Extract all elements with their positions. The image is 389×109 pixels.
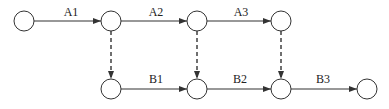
activity-label-b2: B2 bbox=[233, 72, 247, 87]
node-bottom-2 bbox=[187, 79, 207, 99]
activity-label-a2: A2 bbox=[149, 5, 164, 20]
node-top-4 bbox=[271, 11, 291, 31]
node-top-2 bbox=[101, 11, 121, 31]
node-top-1 bbox=[14, 11, 34, 31]
activity-label-b3: B3 bbox=[316, 72, 330, 87]
activity-label-a1: A1 bbox=[64, 5, 79, 20]
diagram-canvas bbox=[0, 0, 389, 109]
node-bottom-3 bbox=[271, 79, 291, 99]
activity-label-b1: B1 bbox=[149, 72, 163, 87]
node-bottom-1 bbox=[101, 79, 121, 99]
network-diagram: A1 A2 A3 B1 B2 B3 bbox=[0, 0, 389, 109]
activity-label-a3: A3 bbox=[234, 5, 249, 20]
node-top-3 bbox=[187, 11, 207, 31]
node-bottom-4 bbox=[357, 79, 377, 99]
